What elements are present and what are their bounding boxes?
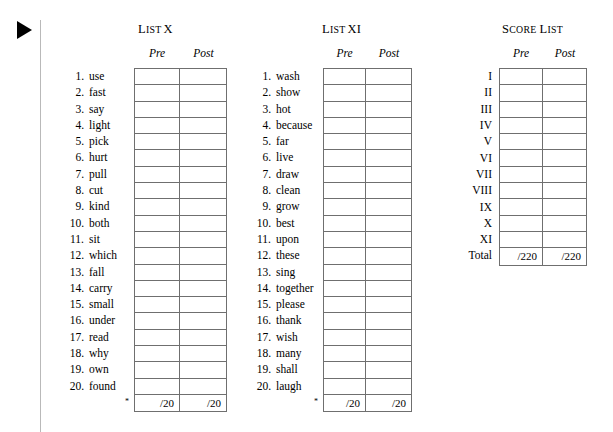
grid-entry-cell[interactable] (500, 150, 543, 165)
grid-entry-cell[interactable] (324, 134, 366, 149)
grid-entry-cell[interactable] (180, 346, 226, 361)
grid-entry-cell[interactable] (543, 232, 586, 247)
grid-entry-cell[interactable] (324, 330, 366, 345)
grid-total-cell[interactable]: /20 (135, 395, 180, 411)
grid-entry-cell[interactable] (135, 297, 180, 312)
grid-entry-cell[interactable] (135, 216, 180, 231)
grid-entry-cell[interactable] (324, 69, 366, 84)
grid-entry-cell[interactable] (135, 199, 180, 214)
grid-entry-cell[interactable] (366, 248, 411, 263)
grid-entry-cell[interactable] (324, 346, 366, 361)
grid-entry-cell[interactable] (324, 297, 366, 312)
grid-entry-cell[interactable] (135, 379, 180, 394)
grid-entry-cell[interactable] (324, 199, 366, 214)
grid-entry-cell[interactable] (180, 232, 226, 247)
grid-total-cell[interactable]: /20 (180, 395, 226, 411)
grid-entry-cell[interactable] (324, 313, 366, 328)
grid-entry-cell[interactable] (366, 216, 411, 231)
grid-entry-cell[interactable] (543, 216, 586, 231)
list-xi-grid[interactable]: /20/20 (323, 68, 412, 412)
grid-total-cell[interactable]: /220 (500, 248, 543, 264)
grid-entry-cell[interactable] (324, 232, 366, 247)
grid-entry-cell[interactable] (366, 199, 411, 214)
list-x-grid[interactable]: /20/20 (134, 68, 227, 412)
grid-entry-cell[interactable] (324, 85, 366, 100)
grid-total-cell[interactable]: /20 (324, 395, 366, 411)
grid-entry-cell[interactable] (180, 248, 226, 263)
grid-entry-cell[interactable] (135, 150, 180, 165)
grid-entry-cell[interactable] (324, 362, 366, 377)
grid-entry-cell[interactable] (135, 346, 180, 361)
grid-entry-cell[interactable] (366, 69, 411, 84)
grid-entry-cell[interactable] (324, 216, 366, 231)
grid-entry-cell[interactable] (500, 69, 543, 84)
grid-entry-cell[interactable] (366, 297, 411, 312)
grid-entry-cell[interactable] (500, 85, 543, 100)
grid-entry-cell[interactable] (543, 102, 586, 117)
grid-entry-cell[interactable] (366, 134, 411, 149)
grid-entry-cell[interactable] (135, 313, 180, 328)
grid-total-cell[interactable]: /20 (366, 395, 411, 411)
grid-entry-cell[interactable] (324, 265, 366, 280)
grid-entry-cell[interactable] (324, 102, 366, 117)
grid-entry-cell[interactable] (366, 330, 411, 345)
grid-entry-cell[interactable] (366, 118, 411, 133)
grid-entry-cell[interactable] (180, 118, 226, 133)
grid-entry-cell[interactable] (180, 281, 226, 296)
grid-entry-cell[interactable] (500, 232, 543, 247)
grid-entry-cell[interactable] (543, 183, 586, 198)
grid-entry-cell[interactable] (135, 102, 180, 117)
grid-entry-cell[interactable] (135, 85, 180, 100)
grid-entry-cell[interactable] (180, 199, 226, 214)
grid-entry-cell[interactable] (366, 183, 411, 198)
grid-entry-cell[interactable] (180, 102, 226, 117)
grid-entry-cell[interactable] (500, 216, 543, 231)
grid-entry-cell[interactable] (135, 69, 180, 84)
grid-entry-cell[interactable] (366, 167, 411, 182)
grid-entry-cell[interactable] (135, 330, 180, 345)
grid-entry-cell[interactable] (180, 69, 226, 84)
score-list-grid[interactable]: /220/220 (499, 68, 587, 266)
grid-entry-cell[interactable] (135, 232, 180, 247)
grid-entry-cell[interactable] (366, 85, 411, 100)
grid-entry-cell[interactable] (180, 313, 226, 328)
grid-entry-cell[interactable] (543, 118, 586, 133)
grid-entry-cell[interactable] (180, 330, 226, 345)
grid-entry-cell[interactable] (366, 362, 411, 377)
grid-entry-cell[interactable] (180, 134, 226, 149)
grid-entry-cell[interactable] (543, 134, 586, 149)
grid-entry-cell[interactable] (135, 265, 180, 280)
grid-entry-cell[interactable] (366, 232, 411, 247)
grid-entry-cell[interactable] (366, 265, 411, 280)
grid-entry-cell[interactable] (180, 183, 226, 198)
grid-entry-cell[interactable] (500, 199, 543, 214)
grid-entry-cell[interactable] (180, 379, 226, 394)
grid-entry-cell[interactable] (324, 150, 366, 165)
grid-entry-cell[interactable] (180, 216, 226, 231)
grid-entry-cell[interactable] (180, 150, 226, 165)
grid-entry-cell[interactable] (500, 118, 543, 133)
grid-entry-cell[interactable] (500, 183, 543, 198)
grid-total-cell[interactable]: /220 (543, 248, 586, 264)
grid-entry-cell[interactable] (324, 118, 366, 133)
grid-entry-cell[interactable] (324, 248, 366, 263)
grid-entry-cell[interactable] (180, 85, 226, 100)
grid-entry-cell[interactable] (135, 167, 180, 182)
grid-entry-cell[interactable] (180, 265, 226, 280)
grid-entry-cell[interactable] (324, 167, 366, 182)
grid-entry-cell[interactable] (543, 199, 586, 214)
grid-entry-cell[interactable] (135, 183, 180, 198)
grid-entry-cell[interactable] (366, 281, 411, 296)
grid-entry-cell[interactable] (180, 167, 226, 182)
grid-entry-cell[interactable] (135, 134, 180, 149)
grid-entry-cell[interactable] (366, 313, 411, 328)
grid-entry-cell[interactable] (180, 362, 226, 377)
grid-entry-cell[interactable] (543, 150, 586, 165)
grid-entry-cell[interactable] (543, 85, 586, 100)
grid-entry-cell[interactable] (135, 118, 180, 133)
grid-entry-cell[interactable] (366, 379, 411, 394)
grid-entry-cell[interactable] (135, 281, 180, 296)
grid-entry-cell[interactable] (366, 150, 411, 165)
grid-entry-cell[interactable] (135, 248, 180, 263)
grid-entry-cell[interactable] (324, 281, 366, 296)
